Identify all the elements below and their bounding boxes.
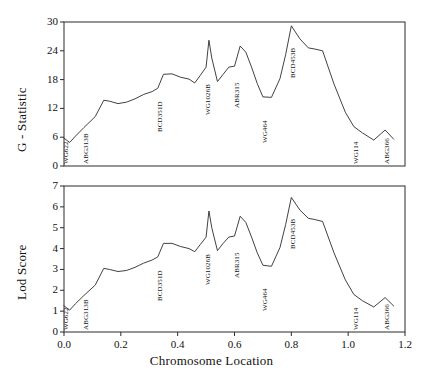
marker-label: ABR315 bbox=[233, 253, 241, 279]
marker-label: BCD453B bbox=[289, 219, 297, 249]
x-tick-label: 1.2 bbox=[385, 338, 423, 350]
marker-label: ABG366 bbox=[383, 304, 391, 330]
x-tick-label: 1.0 bbox=[328, 338, 368, 350]
x-tick-label: 0.6 bbox=[215, 338, 255, 350]
figure-root: G - Statistic 0612182430 WG622ABG313BBCD… bbox=[0, 0, 423, 390]
marker-label: WG464 bbox=[261, 289, 269, 312]
x-tick-label: 0.2 bbox=[101, 338, 141, 350]
marker-label: WG114 bbox=[352, 308, 360, 330]
x-tick-label: 0.8 bbox=[271, 338, 311, 350]
x-axis-title: Chromosome Location bbox=[0, 353, 423, 369]
marker-label: ABG313B bbox=[82, 299, 90, 330]
marker-label: WG1026B bbox=[204, 254, 212, 285]
x-tick-label: 0.4 bbox=[158, 338, 198, 350]
x-tick-label: 0.0 bbox=[44, 338, 84, 350]
marker-label: WG622 bbox=[62, 307, 70, 330]
series-line bbox=[64, 197, 394, 310]
marker-label: BCD351D bbox=[156, 270, 164, 301]
plot-area-bottom bbox=[0, 0, 423, 390]
